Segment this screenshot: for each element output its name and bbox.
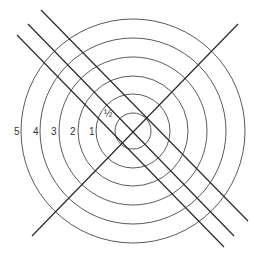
ring-label: 5 — [14, 126, 20, 137]
ring-label: 1 — [89, 126, 95, 137]
diagonal-falling-3 — [17, 35, 224, 247]
ring-label: ½ — [104, 108, 113, 119]
ring-label: 4 — [33, 126, 39, 137]
ring-labels: 54321½ — [14, 108, 113, 137]
ring-label: 3 — [51, 126, 57, 137]
concentric-rings-diagram: 54321½ — [0, 0, 259, 259]
ring-label: 2 — [70, 126, 76, 137]
diagonal-falling-1 — [41, 10, 248, 221]
